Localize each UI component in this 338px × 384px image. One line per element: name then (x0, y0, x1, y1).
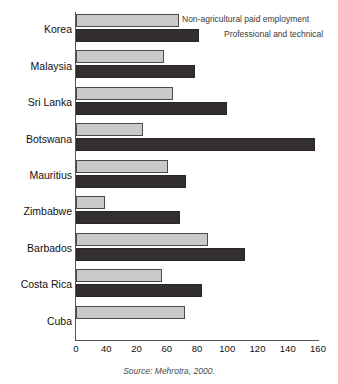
bar-group (76, 194, 318, 230)
source-caption: Source: Mehrotra, 2000. (0, 366, 338, 376)
source-text: Source: Mehrotra, 2000. (123, 366, 215, 376)
bar-zimbabwe-series-0 (76, 196, 105, 209)
x-tick-label-3: 60 (161, 343, 172, 355)
bar-group (76, 304, 318, 340)
bar-chart-figure: KoreaMalaysiaSri LankaBotswanaMauritiusZ… (0, 0, 338, 384)
x-tick-label-8: 160 (310, 343, 326, 355)
bar-group (76, 267, 318, 303)
category-label-korea: Korea (2, 24, 72, 35)
bar-group (76, 85, 318, 121)
bar-korea-series-0 (76, 14, 179, 27)
x-tick-label-1: 40 (101, 343, 112, 355)
category-label-costa-rica: Costa Rica (2, 279, 72, 290)
bar-mauritius-series-1 (76, 175, 186, 188)
x-tick-label-6: 120 (250, 343, 266, 355)
bar-malaysia-series-0 (76, 50, 164, 63)
bar-group (76, 48, 318, 84)
category-axis-labels: KoreaMalaysiaSri LankaBotswanaMauritiusZ… (0, 12, 72, 340)
bar-barbados-series-0 (76, 233, 208, 246)
bar-group (76, 231, 318, 267)
bar-malaysia-series-1 (76, 65, 195, 78)
bar-costa-rica-series-0 (76, 269, 162, 282)
bar-botswana-series-1 (76, 138, 315, 151)
x-axis-tick-labels: 040206080100120140160 (0, 343, 338, 357)
bar-cuba-series-0 (76, 306, 185, 319)
category-label-zimbabwe: Zimbabwe (2, 206, 72, 217)
bar-botswana-series-0 (76, 123, 143, 136)
bar-zimbabwe-series-1 (76, 211, 180, 224)
plot-area (76, 12, 318, 340)
legend-label-0: Non-agricultural paid employment (182, 13, 309, 25)
category-label-barbados: Barbados (2, 243, 72, 254)
bar-barbados-series-1 (76, 248, 245, 261)
x-tick-label-0: 0 (73, 343, 78, 355)
category-label-botswana: Botswana (2, 134, 72, 145)
category-label-sri-lanka: Sri Lanka (2, 97, 72, 108)
category-label-malaysia: Malaysia (2, 61, 72, 72)
legend-label-1: Professional and technical (224, 28, 323, 40)
bar-mauritius-series-0 (76, 160, 168, 173)
category-label-cuba: Cuba (2, 316, 72, 327)
x-tick-label-2: 20 (131, 343, 142, 355)
x-tick-label-7: 140 (280, 343, 296, 355)
x-axis-line (75, 340, 319, 341)
x-tick-label-4: 80 (192, 343, 203, 355)
bar-group (76, 158, 318, 194)
x-tick-label-5: 100 (219, 343, 235, 355)
bar-group (76, 121, 318, 157)
category-label-mauritius: Mauritius (2, 170, 72, 181)
bar-sri-lanka-series-1 (76, 102, 227, 115)
chart-legend: Non-agricultural paid employmentProfessi… (176, 12, 338, 42)
bar-costa-rica-series-1 (76, 284, 202, 297)
bar-sri-lanka-series-0 (76, 87, 173, 100)
